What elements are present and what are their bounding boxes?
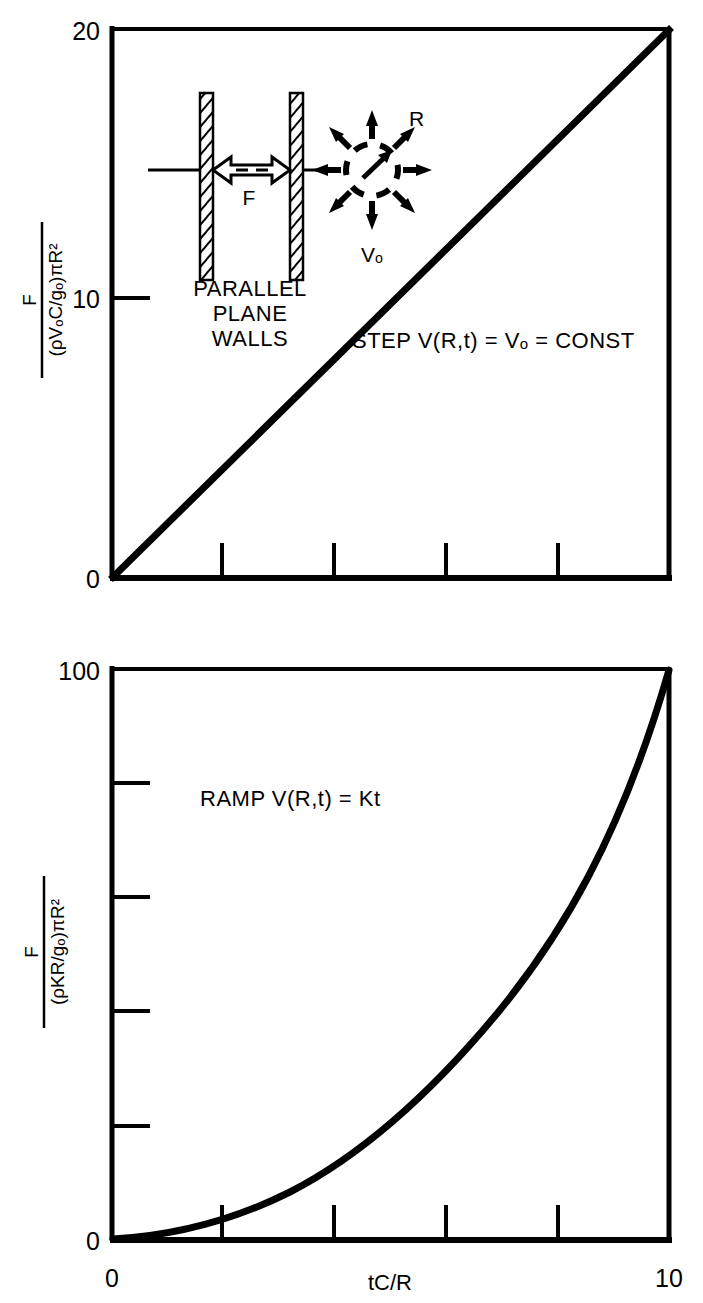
bottom-annotation: RAMP V(R,t) = Kt xyxy=(200,786,381,811)
walls-caption-line-3: WALLS xyxy=(212,326,288,351)
bottom-y-axis-denominator: (ρKR/gₒ)πR² xyxy=(47,899,68,1005)
bottom-y-tick-label-0: 0 xyxy=(86,1227,100,1255)
walls-caption-line-2: PLANE xyxy=(213,301,288,326)
bottom-y-axis-numerator: F xyxy=(21,946,42,958)
bottom-x-tick-label-10: 10 xyxy=(655,1264,683,1292)
figure-svg: 20 10 0 F (ρVₒC/gₒ)πR² STEP V(R,t) = Vₒ … xyxy=(0,0,703,1303)
right-wall xyxy=(290,93,303,280)
top-y-tick-label-10: 10 xyxy=(72,285,100,313)
walls-caption-line-1: PARALLEL xyxy=(193,276,307,301)
top-y-tick-label-20: 20 xyxy=(72,17,100,45)
top-y-axis-denominator: (ρVₒC/gₒ)πR² xyxy=(45,243,66,356)
top-annotation: STEP V(R,t) = Vₒ = CONST xyxy=(352,328,635,353)
bottom-x-axis-title: tC/R xyxy=(368,1270,412,1295)
left-wall xyxy=(200,93,213,280)
sphere-radius-label: R xyxy=(409,107,424,130)
sphere-velocity-label: Vₒ xyxy=(361,243,383,266)
figure-background xyxy=(0,0,703,1303)
top-y-tick-label-0: 0 xyxy=(86,565,100,593)
force-label-F: F xyxy=(243,186,256,209)
bottom-y-tick-label-100: 100 xyxy=(58,657,100,685)
figure-container: 20 10 0 F (ρVₒC/gₒ)πR² STEP V(R,t) = Vₒ … xyxy=(0,0,703,1303)
top-y-axis-numerator: F xyxy=(19,294,40,306)
bottom-x-tick-label-0: 0 xyxy=(105,1264,119,1292)
